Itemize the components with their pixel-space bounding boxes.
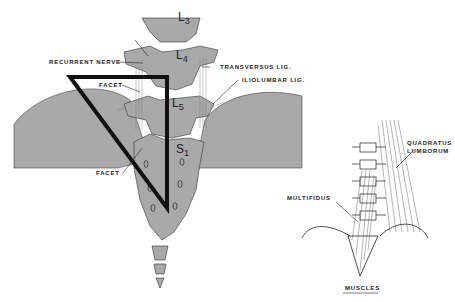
- label-l3: L3: [178, 10, 190, 26]
- label-s1: S1: [176, 142, 189, 158]
- vertebra-l3: [142, 18, 200, 42]
- vertebra-l4: [124, 46, 218, 90]
- muscle-leaders: [336, 150, 414, 293]
- spine-diagram: [0, 0, 455, 302]
- coccyx: [152, 246, 168, 288]
- label-facet-lower: FACET: [96, 170, 120, 176]
- caption-muscles: MUSCLES: [345, 285, 380, 291]
- label-l5: L5: [172, 96, 184, 112]
- label-transversus-lig: TRANSVERSUS LIG.: [220, 64, 291, 70]
- label-quadratus: QUADRATUS: [407, 140, 452, 146]
- label-lumborum: LUMBORUM: [407, 148, 449, 154]
- label-multifidus: MULTIFIDUS: [287, 195, 331, 201]
- label-iliolumbar-lig: ILIOLUMBAR LIG.: [242, 77, 305, 83]
- label-facet-upper: FACET: [99, 82, 123, 88]
- label-recurrent-nerve: RECURRENT NERVE: [49, 59, 121, 65]
- label-l4: L4: [176, 48, 188, 64]
